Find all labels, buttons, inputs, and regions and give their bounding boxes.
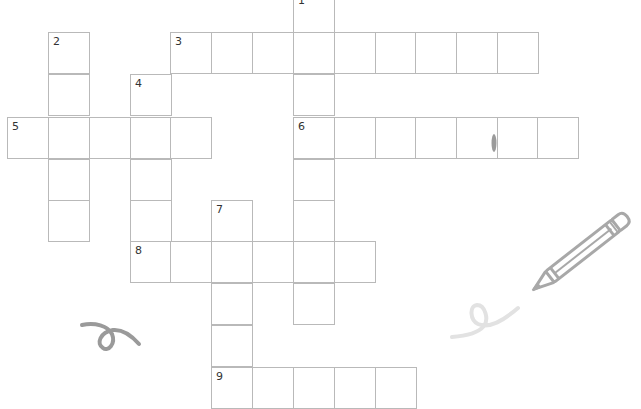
crossword-cell[interactable]: 4 xyxy=(130,74,172,116)
crossword-cell[interactable] xyxy=(293,283,335,325)
crossword-cell[interactable] xyxy=(334,117,376,159)
crossword-cell[interactable] xyxy=(293,200,335,242)
clue-number: 2 xyxy=(53,36,60,47)
crossword-cell[interactable] xyxy=(130,200,172,242)
crossword-cell[interactable] xyxy=(537,117,579,159)
crossword-cell[interactable]: 2 xyxy=(48,32,90,74)
clue-number: 5 xyxy=(12,121,19,132)
crossword-cell[interactable]: 7 xyxy=(211,200,253,242)
crossword-cell[interactable] xyxy=(497,117,539,159)
crossword-cell[interactable] xyxy=(334,241,376,283)
crossword-cell[interactable] xyxy=(211,241,253,283)
crossword-cell[interactable]: 9 xyxy=(211,367,253,409)
crossword-cell[interactable] xyxy=(130,117,172,159)
clue-number: 1 xyxy=(298,0,305,6)
crossword-cell[interactable] xyxy=(211,283,253,325)
crossword-cell[interactable]: 5 xyxy=(7,117,49,159)
clue-number: 8 xyxy=(135,245,142,256)
crossword-cell[interactable] xyxy=(293,367,335,409)
crossword-cell[interactable]: 3 xyxy=(170,32,212,74)
crossword-cell[interactable] xyxy=(48,159,90,201)
crossword-cell[interactable] xyxy=(456,117,498,159)
crossword-cell[interactable] xyxy=(334,367,376,409)
crossword-cell[interactable] xyxy=(293,241,335,283)
crossword-cell[interactable] xyxy=(211,325,253,367)
crossword-cell[interactable] xyxy=(48,200,90,242)
crossword-cell[interactable] xyxy=(456,32,498,74)
clue-number: 9 xyxy=(216,371,223,382)
crossword-cell[interactable] xyxy=(48,74,90,116)
crossword-cell[interactable] xyxy=(211,32,253,74)
crossword-cell[interactable] xyxy=(375,32,417,74)
crossword-cell[interactable] xyxy=(375,367,417,409)
clue-number: 4 xyxy=(135,78,142,89)
crossword-cell[interactable] xyxy=(48,117,90,159)
crossword-cell[interactable] xyxy=(89,117,131,159)
crossword-cell[interactable] xyxy=(334,32,376,74)
crossword-cell[interactable] xyxy=(415,117,457,159)
crossword-cell[interactable] xyxy=(252,367,294,409)
crossword-cell[interactable] xyxy=(293,159,335,201)
clue-number: 6 xyxy=(298,121,305,132)
crossword-cell[interactable] xyxy=(252,241,294,283)
crossword-cell[interactable] xyxy=(252,32,294,74)
crossword-cell[interactable] xyxy=(170,241,212,283)
crossword-cell[interactable] xyxy=(130,159,172,201)
crossword-cell[interactable] xyxy=(415,32,457,74)
crossword-cell[interactable] xyxy=(170,117,212,159)
crossword-cell[interactable] xyxy=(293,32,335,74)
clue-number: 7 xyxy=(216,204,223,215)
crossword-cell[interactable]: 6 xyxy=(293,117,335,159)
crossword-cell[interactable]: 1 xyxy=(293,0,335,33)
clue-number: 3 xyxy=(175,36,182,47)
crossword-cell[interactable] xyxy=(497,32,539,74)
crossword-cell[interactable] xyxy=(375,117,417,159)
crossword-cell[interactable] xyxy=(293,74,335,116)
crossword-cell[interactable]: 8 xyxy=(130,241,172,283)
